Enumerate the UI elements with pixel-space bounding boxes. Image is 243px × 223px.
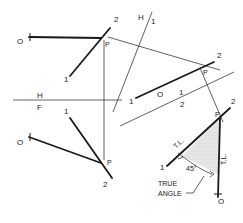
aux1-line-12 bbox=[136, 62, 214, 98]
aux2-label-P: P bbox=[215, 111, 220, 118]
front-label-2: 2 bbox=[103, 180, 108, 189]
front-label-O: O bbox=[17, 138, 23, 147]
top-label-2: 2 bbox=[114, 15, 119, 24]
front-line-12 bbox=[70, 118, 112, 178]
true-angle-callout-line2: ANGLE bbox=[158, 190, 182, 197]
aux1-label-O: O bbox=[157, 90, 163, 99]
top-label-1: 1 bbox=[64, 75, 69, 84]
front-label-P: P bbox=[107, 159, 112, 166]
angle-value: 45° bbox=[186, 165, 197, 172]
folding-line-H1: H 1 bbox=[113, 12, 156, 112]
aux2-label-2: 2 bbox=[231, 97, 236, 106]
front-label-1: 1 bbox=[64, 107, 69, 116]
projector-P-aux1 bbox=[108, 37, 220, 70]
aux1-label-1: 1 bbox=[129, 97, 134, 106]
top-label-P: P bbox=[105, 41, 110, 48]
aux1-label-P: P bbox=[203, 69, 208, 76]
fold-label-F: F bbox=[37, 103, 42, 112]
aux2-label-O: O bbox=[218, 197, 224, 206]
fold-label-12-1: 1 bbox=[179, 88, 184, 97]
true-angle-diagram: O 1 2 P H F O 1 2 P H 1 1 O 2 P bbox=[0, 0, 243, 223]
true-angle-callout-line1: TRUE bbox=[158, 180, 177, 187]
aux-view-1: 1 O 2 P bbox=[129, 51, 222, 106]
aux1-label-2: 2 bbox=[217, 51, 222, 60]
fold-label-H1-1: 1 bbox=[151, 17, 156, 26]
true-length-label-2: T.L. bbox=[220, 154, 227, 165]
aux-view-2: 1 2 P O T.L. T.L. 45° TRUE ANGLE bbox=[158, 97, 236, 206]
fold-label-H: H bbox=[37, 91, 43, 100]
top-label-O: O bbox=[17, 37, 23, 46]
front-view: O 1 2 P bbox=[17, 107, 112, 189]
true-length-label-1: T.L. bbox=[172, 137, 185, 150]
aux2-label-1: 1 bbox=[160, 163, 165, 172]
true-angle-leader bbox=[186, 176, 204, 193]
fold-label-H1-H: H bbox=[138, 13, 144, 22]
front-line-OP bbox=[29, 137, 101, 163]
top-line-OP bbox=[29, 37, 101, 38]
fold-label-12-2: 2 bbox=[180, 100, 185, 109]
